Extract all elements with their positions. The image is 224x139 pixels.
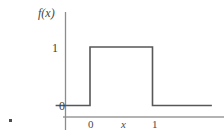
x-tick-label-one: 1 bbox=[152, 119, 158, 130]
y-tick-label-one: 1 bbox=[52, 42, 58, 54]
plot-canvas bbox=[0, 0, 224, 139]
y-tick-label-zero: 0 bbox=[59, 100, 65, 112]
function-curve-rectangular-pulse bbox=[56, 47, 212, 106]
stray-dot-mark bbox=[9, 119, 12, 122]
x-tick-label-zero: 0 bbox=[88, 119, 94, 130]
rectangular-pulse-figure: f(x) 1 0 0 x 1 bbox=[0, 0, 224, 139]
x-axis-label: x bbox=[121, 119, 126, 130]
y-axis-label: f(x) bbox=[38, 7, 55, 19]
